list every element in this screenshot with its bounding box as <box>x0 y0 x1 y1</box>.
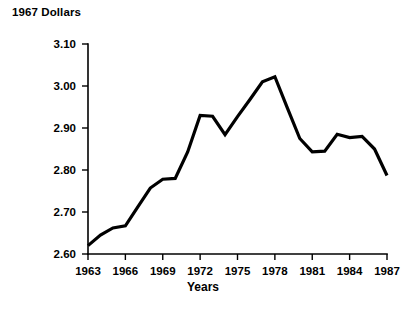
x-tick-label: 1963 <box>75 265 101 277</box>
x-axis-label: Years <box>0 280 406 294</box>
y-tick-label: 3.10 <box>54 38 76 50</box>
x-axis-tick-labels: 196319661969197219751978198119841987 <box>75 265 400 277</box>
x-tick-label: 1966 <box>113 265 139 277</box>
x-tick-label: 1969 <box>150 265 176 277</box>
x-tick-label: 1987 <box>374 265 400 277</box>
y-tick-label: 2.70 <box>54 206 76 218</box>
x-tick-label: 1984 <box>337 265 363 277</box>
x-tick-label: 1981 <box>299 265 325 277</box>
data-series-line <box>88 77 387 246</box>
y-tick-label: 2.60 <box>54 248 76 260</box>
line-chart-plot: 2.602.702.802.903.003.10 196319661969197… <box>0 0 406 309</box>
x-tick-label: 1978 <box>262 265 288 277</box>
y-tick-label: 3.00 <box>54 80 76 92</box>
y-tick-label: 2.80 <box>54 164 76 176</box>
chart-figure: 1967 Dollars 2.602.702.802.903.003.10 19… <box>0 0 406 309</box>
y-axis-tick-marks <box>82 44 88 254</box>
x-tick-label: 1972 <box>187 265 213 277</box>
x-axis-tick-marks <box>88 254 387 260</box>
y-tick-label: 2.90 <box>54 122 76 134</box>
x-tick-label: 1975 <box>225 265 251 277</box>
y-axis-tick-labels: 2.602.702.802.903.003.10 <box>54 38 76 260</box>
